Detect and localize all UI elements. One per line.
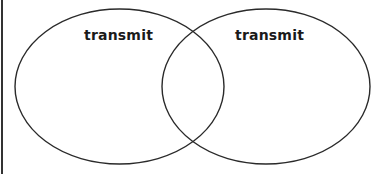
venn-diagram: transmit transmit (0, 0, 376, 174)
venn-ellipses (0, 0, 376, 174)
right-set-label: transmit (235, 27, 304, 43)
left-set-label: transmit (84, 27, 153, 43)
